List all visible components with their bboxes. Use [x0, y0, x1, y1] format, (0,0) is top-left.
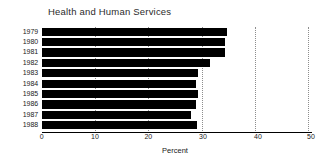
- y-tick-label: 1981: [23, 48, 38, 55]
- x-tick-label: 50: [307, 133, 315, 140]
- bar-row: [42, 120, 312, 130]
- horizontal-bar-chart: Health and Human Services 1979 1980 1981…: [0, 0, 335, 161]
- bar-1985: [42, 90, 199, 98]
- y-tick-label: 1982: [23, 59, 38, 66]
- bar-row: [42, 79, 312, 89]
- bar-row: [42, 58, 312, 68]
- bar-row: [42, 110, 312, 120]
- x-tick-label: 10: [91, 133, 99, 140]
- y-tick-label: 1987: [23, 111, 38, 118]
- bar-row: [42, 37, 312, 47]
- bar-1983: [42, 69, 198, 77]
- bar-row: [42, 47, 312, 57]
- bar-1981: [42, 48, 225, 56]
- bar-row: [42, 68, 312, 78]
- bar-1979: [42, 28, 227, 36]
- x-axis-title: Percent: [162, 146, 188, 155]
- bar-1980: [42, 38, 225, 46]
- y-tick-label: 1985: [23, 90, 38, 97]
- plot-area: [42, 27, 312, 132]
- y-tick-label: 1979: [23, 28, 38, 35]
- x-tick-label: 30: [199, 133, 207, 140]
- bar-1982: [42, 59, 210, 67]
- bar-1984: [42, 80, 196, 88]
- bar-1987: [42, 111, 191, 119]
- y-tick-label: 1984: [23, 80, 38, 87]
- y-tick-label: 1988: [23, 121, 38, 128]
- bar-row: [42, 89, 312, 99]
- y-tick-label: 1980: [23, 38, 38, 45]
- x-tick-label: 20: [144, 133, 152, 140]
- x-tick-label: 0: [40, 133, 44, 140]
- y-axis-tick-labels: 1979 1980 1981 1982 1983 1984 1985 1986 …: [0, 27, 38, 132]
- bar-row: [42, 99, 312, 109]
- chart-title: Health and Human Services: [48, 6, 171, 17]
- y-tick-label: 1986: [23, 100, 38, 107]
- y-tick-label: 1983: [23, 69, 38, 76]
- x-tick-label: 40: [254, 133, 262, 140]
- bar-1986: [42, 100, 196, 108]
- bar-1988: [42, 121, 198, 129]
- bar-row: [42, 27, 312, 37]
- x-axis-tick-labels: 0 10 20 30 40 50: [0, 133, 335, 145]
